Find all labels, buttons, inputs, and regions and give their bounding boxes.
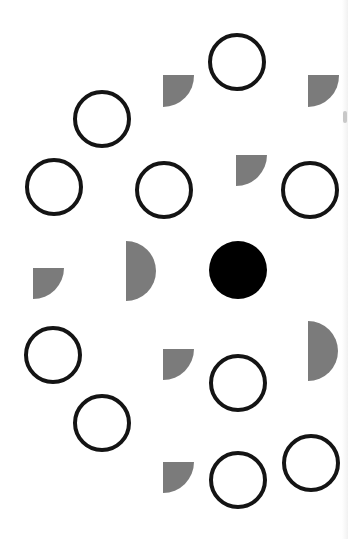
hollow-circle: [211, 453, 265, 507]
right-edge-strip: [342, 0, 348, 539]
gray-partial-semicircle: [308, 75, 339, 107]
hollow-circle: [26, 328, 80, 382]
hollow-circles-group: [26, 35, 338, 507]
gray-partial-semicircle: [163, 349, 194, 380]
gray-partial-semicircle: [163, 462, 194, 493]
gray-semicircle: [308, 321, 338, 381]
filled-circles-group: [209, 241, 267, 299]
hollow-circle: [75, 92, 129, 146]
right-edge-mark: [343, 111, 347, 123]
hollow-circle: [27, 160, 81, 214]
hollow-circle: [284, 436, 338, 490]
hollow-circle: [137, 163, 191, 217]
hollow-circle: [75, 396, 129, 450]
gray-semicircle: [126, 241, 156, 301]
gray-partial-semicircle: [33, 268, 64, 299]
gray-partial-semicircle: [236, 155, 267, 186]
filled-circle: [209, 241, 267, 299]
hollow-circle: [211, 356, 265, 410]
shape-pattern-canvas: [0, 0, 348, 539]
hollow-circle: [283, 163, 337, 217]
gray-partial-semicircle: [163, 75, 194, 107]
gray-partial-semicircles-group: [33, 75, 339, 493]
hollow-circle: [210, 35, 264, 89]
